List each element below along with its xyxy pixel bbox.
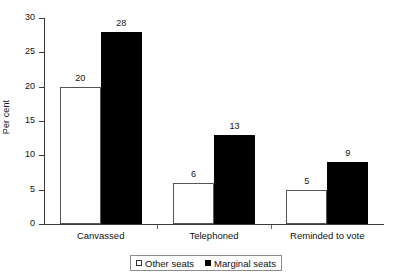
bar-value-label: 13 [204, 122, 265, 131]
y-axis-tick [39, 224, 44, 225]
y-axis-tick [39, 87, 44, 88]
y-axis-tick [39, 121, 44, 122]
legend-entry-other-seats: Other seats [136, 258, 194, 269]
y-axis-tick [39, 18, 44, 19]
y-axis-tick-label: 20 [5, 82, 35, 91]
y-axis-tick [39, 190, 44, 191]
filled-square-marker-icon [205, 260, 211, 266]
bar-value-label: 28 [91, 19, 152, 28]
bar [173, 183, 214, 224]
bar-chart: Per cent 051015202530 202861359 Canvasse… [0, 0, 399, 280]
y-axis-tick-label: 25 [5, 47, 35, 56]
y-axis-tick-label: 5 [5, 185, 35, 194]
y-axis-tick-label: 0 [5, 219, 35, 228]
x-axis-tick [271, 225, 272, 229]
bar [214, 135, 255, 224]
x-axis-category-label: Canvassed [44, 231, 157, 241]
bar-value-label: 9 [317, 149, 378, 158]
y-axis-tick [39, 155, 44, 156]
y-axis-line [44, 18, 45, 225]
bar [286, 190, 327, 224]
y-axis-tick-label: 30 [5, 13, 35, 22]
y-axis-tick [39, 52, 44, 53]
chart-legend: Other seats Marginal seats [130, 255, 282, 271]
x-axis-tick [157, 225, 158, 229]
open-square-marker-icon [136, 260, 142, 266]
bar [101, 32, 142, 224]
x-axis-category-label: Telephoned [157, 231, 270, 241]
x-axis-line [44, 224, 384, 225]
y-axis-tick-label: 15 [5, 116, 35, 125]
legend-entry-marginal-seats: Marginal seats [205, 258, 276, 269]
y-axis-tick-label: 10 [5, 150, 35, 159]
bar [327, 162, 368, 224]
legend-label-other-seats: Other seats [145, 258, 194, 269]
legend-label-marginal-seats: Marginal seats [214, 258, 276, 269]
x-axis-category-label: Reminded to vote [271, 231, 384, 241]
bar [60, 87, 101, 224]
